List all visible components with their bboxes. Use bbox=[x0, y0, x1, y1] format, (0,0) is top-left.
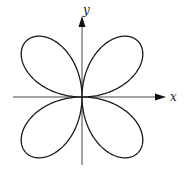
y-axis-label: y bbox=[82, 3, 90, 17]
rose-curve-diagram: x y bbox=[0, 0, 185, 171]
x-axis-label: x bbox=[170, 90, 177, 104]
x-axis-arrow-icon bbox=[155, 94, 166, 101]
y-axis-arrow-icon bbox=[79, 16, 86, 27]
